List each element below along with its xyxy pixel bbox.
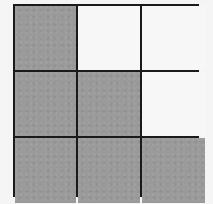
grid-cell-r2-c1-shaded — [15, 72, 76, 136]
grid-cell-r3-c3-shaded — [142, 138, 205, 203]
grid-cell-r1-c3-empty — [142, 6, 205, 70]
grid-cell-r2-c2-shaded — [78, 72, 140, 136]
grid-cell-r3-c1-shaded — [15, 138, 76, 203]
shaded-grid-diagram — [13, 4, 199, 197]
grid-cell-r1-c2-empty — [78, 6, 140, 70]
grid-cell-r1-c1-shaded — [15, 6, 76, 70]
grid-cell-r3-c2-shaded — [78, 138, 140, 203]
grid-cell-r2-c3-empty — [142, 72, 205, 136]
